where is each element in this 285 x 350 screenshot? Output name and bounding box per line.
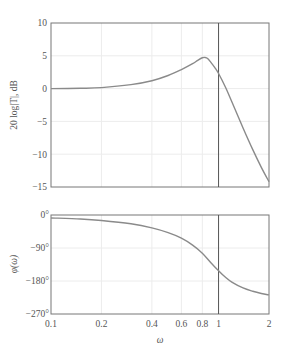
phase-y-axis-label: φ(ω) xyxy=(9,255,20,273)
y-tick-label: −15 xyxy=(32,182,47,192)
x-tick-label: 0.6 xyxy=(175,319,187,329)
x-ticks: 0.10.20.40.60.812 xyxy=(45,319,272,329)
magnitude-plot-frame xyxy=(51,23,269,187)
y-tick-label: −5 xyxy=(37,117,47,127)
x-tick-label: 2 xyxy=(267,319,272,329)
x-axis-label: ω xyxy=(157,335,164,345)
magnitude-y-ticks: 1050−5−10−15 xyxy=(32,18,47,192)
bode-plot: 1050−5−10−15 0°−90°−180°−270° 0.10.20.40… xyxy=(0,0,285,350)
y-tick-label: −180° xyxy=(26,276,50,286)
y-tick-label: 5 xyxy=(42,51,47,61)
y-tick-label: −270° xyxy=(26,309,50,319)
y-tick-label: −90° xyxy=(30,243,49,253)
phase-y-ticks: 0°−90°−180°−270° xyxy=(26,210,50,319)
y-tick-label: 0 xyxy=(42,84,47,94)
y-tick-label: 10 xyxy=(38,18,48,28)
x-tick-label: 0.4 xyxy=(146,319,158,329)
x-tick-label: 0.2 xyxy=(96,319,108,329)
phase-curve xyxy=(51,218,269,295)
magnitude-y-axis-label: 20 log|T|, dB xyxy=(9,80,19,129)
x-tick-label: 0.8 xyxy=(196,319,208,329)
y-tick-label: −10 xyxy=(32,150,47,160)
x-tick-label: 1 xyxy=(216,319,221,329)
magnitude-grid xyxy=(51,23,269,187)
magnitude-curve xyxy=(51,57,269,181)
y-tick-label: 0° xyxy=(40,210,49,220)
x-tick-label: 0.1 xyxy=(45,319,57,329)
